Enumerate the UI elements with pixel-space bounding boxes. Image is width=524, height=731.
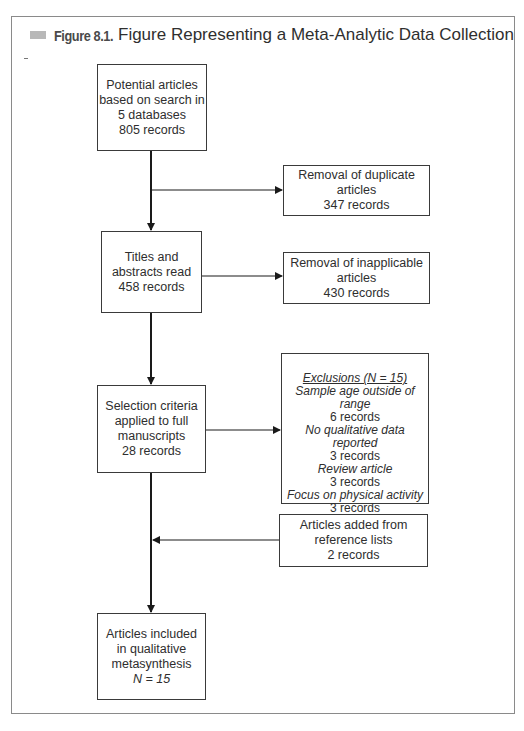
node-text: 5 databases [118, 108, 186, 123]
node-count: 430 records [323, 286, 389, 301]
node-articles-added: Articles added from reference lists 2 re… [279, 514, 428, 567]
node-exclusions: Exclusions (N = 15) Sample age outside o… [281, 353, 429, 504]
node-selection-criteria: Selection criteria applied to full manus… [97, 385, 206, 473]
node-text: articles [337, 183, 377, 198]
node-text: Removal of duplicate [298, 168, 415, 183]
node-count: 28 records [122, 444, 181, 459]
node-text: articles [337, 271, 377, 286]
node-count: 2 records [327, 548, 379, 563]
node-count: 805 records [119, 123, 185, 138]
connector-lines [0, 0, 524, 731]
node-articles-included: Articles included in qualitative metasyn… [97, 613, 206, 700]
node-text: Removal of inapplicable [290, 256, 423, 271]
node-count: 347 records [323, 198, 389, 213]
node-text: reference lists [315, 533, 393, 548]
node-count: N = 15 [133, 672, 170, 687]
node-text: Titles and [125, 250, 179, 265]
exclusion-reason: No qualitative data reported [282, 424, 428, 450]
node-text: Articles included [106, 627, 197, 642]
exclusion-reason: Sample age outside of range [282, 385, 428, 411]
node-text: in qualitative [117, 642, 187, 657]
node-text: applied to full [115, 414, 189, 429]
node-potential-articles: Potential articles based on search in 5 … [97, 64, 207, 151]
node-duplicates-removed: Removal of duplicate articles 347 record… [283, 165, 430, 216]
node-inapplicable-removed: Removal of inapplicable articles 430 rec… [283, 252, 430, 304]
node-text: Potential articles [106, 78, 198, 93]
node-text: based on search in [99, 93, 205, 108]
node-text: Selection criteria [105, 399, 197, 414]
node-text: Articles added from [300, 518, 408, 533]
node-titles-abstracts: Titles and abstracts read 458 records [101, 231, 202, 313]
node-text: manuscripts [118, 429, 185, 444]
node-text: metasynthesis [112, 657, 192, 672]
node-count: 458 records [118, 280, 184, 295]
node-text: abstracts read [112, 265, 191, 280]
